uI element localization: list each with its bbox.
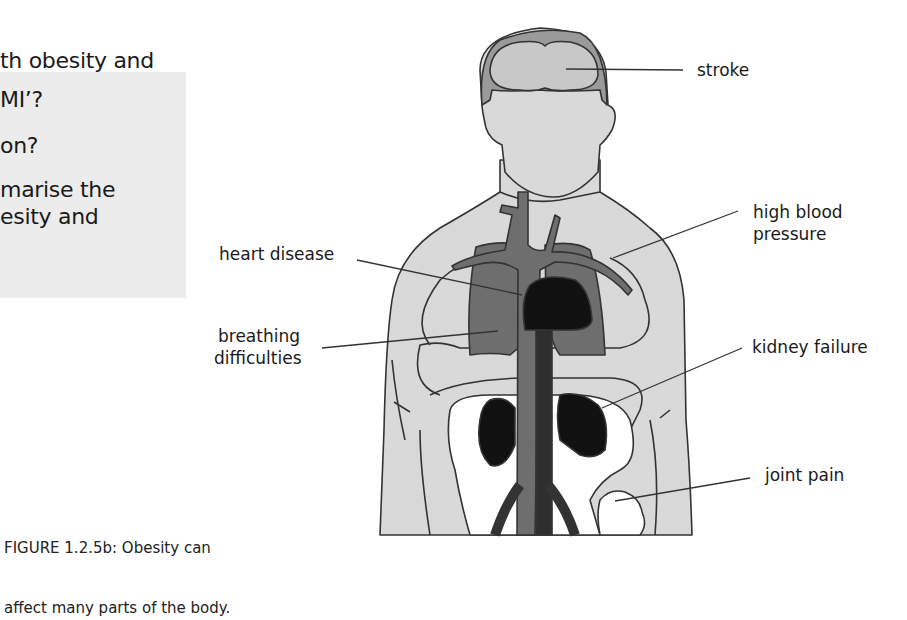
label-high-blood-pressure-1: high blood xyxy=(753,202,843,222)
label-breathing-difficulties-1: breathing xyxy=(218,326,300,346)
left-kidney xyxy=(479,399,515,466)
label-stroke: stroke xyxy=(697,60,749,80)
label-breathing-difficulties-2: difficulties xyxy=(214,348,302,368)
brain xyxy=(490,42,598,91)
aorta-descending xyxy=(536,330,552,535)
figure-caption: FIGURE 1.2.5b: Obesity can affect many p… xyxy=(4,498,230,620)
label-heart-disease: heart disease xyxy=(219,244,334,264)
label-high-blood-pressure-2: pressure xyxy=(753,224,826,244)
label-kidney-failure: kidney failure xyxy=(752,337,868,357)
label-joint-pain: joint pain xyxy=(765,465,844,485)
caption-line: FIGURE 1.2.5b: Obesity can xyxy=(4,538,230,558)
caption-line: affect many parts of the body. xyxy=(4,598,230,618)
